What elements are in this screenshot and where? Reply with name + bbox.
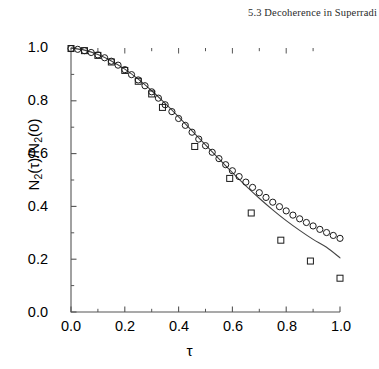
x-tick-label: 0.4 <box>159 318 199 334</box>
x-tick-label: 0.2 <box>105 318 145 334</box>
data-point <box>337 275 343 281</box>
x-tick-label: 0.8 <box>267 318 307 334</box>
data-point <box>248 210 254 216</box>
y-tick-label: 0.0 <box>6 304 48 320</box>
data-point <box>227 175 233 181</box>
data-point <box>155 95 161 101</box>
data-point <box>323 229 329 235</box>
data-point <box>249 184 255 190</box>
data-point <box>128 72 134 78</box>
data-point <box>283 208 289 214</box>
data-point <box>142 83 148 89</box>
data-point <box>290 212 296 218</box>
y-axis-title: N2(τ)/N2(0) <box>25 80 42 230</box>
data-point <box>330 232 336 238</box>
data-point <box>263 194 269 200</box>
x-tick-label: 1.0 <box>321 318 361 334</box>
data-series-circles <box>68 45 343 241</box>
x-axis-title: τ <box>0 342 379 360</box>
data-point <box>337 235 343 241</box>
data-point <box>270 199 276 205</box>
data-point <box>192 143 198 149</box>
data-point <box>278 237 284 243</box>
x-tick-label: 0.6 <box>213 318 253 334</box>
data-point <box>243 179 249 185</box>
data-point <box>297 216 303 222</box>
data-point <box>223 162 229 168</box>
data-point <box>256 190 262 196</box>
data-point <box>149 89 155 95</box>
running-header: 5.3 Decoherence in Superradi <box>248 7 377 18</box>
y-tick-label: 1.0 <box>6 39 48 55</box>
data-point <box>317 226 323 232</box>
data-series-squares <box>68 46 343 282</box>
data-point <box>276 204 282 210</box>
data-point <box>310 223 316 229</box>
data-point <box>189 129 195 135</box>
axis-spines <box>71 48 340 312</box>
theory-curve <box>71 48 340 258</box>
data-point <box>303 219 309 225</box>
axis-ticks <box>71 48 340 312</box>
figure-container: 1.0 0.8 0.6 0.4 0.2 0.0 0.0 0.2 0.4 0.6 … <box>0 24 379 369</box>
data-point <box>307 258 313 264</box>
data-point <box>196 136 202 142</box>
x-tick-label: 0.0 <box>51 318 91 334</box>
y-tick-label: 0.2 <box>6 251 48 267</box>
